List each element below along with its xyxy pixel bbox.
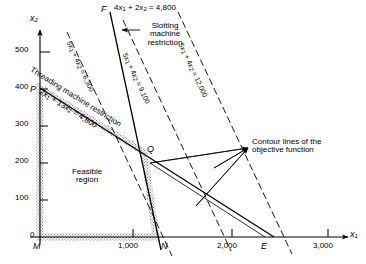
vertex-label-N: N — [161, 242, 168, 251]
feasible-region-label: Feasible region — [57, 168, 117, 185]
vertex-label-E: E — [261, 242, 267, 251]
x-axis-title: x1 — [350, 230, 358, 239]
y-tick-label-0: 0 — [30, 231, 34, 239]
x-tick-label-2000: 2,000 — [217, 242, 237, 250]
contour-caption: Contour lines of the objective function — [252, 138, 321, 155]
contour-leader-lines — [150, 148, 265, 237]
feasible-region-label-line2: region — [57, 176, 117, 184]
y-axis-title: x2 — [30, 14, 38, 23]
vertex-label-F: F — [101, 5, 107, 14]
x-tick-label-1000: 1,000 — [118, 242, 138, 250]
vertex-label-Q: Q — [147, 145, 154, 154]
y-tick-label-500: 500 — [15, 46, 28, 54]
figure-canvas: x2 x1 500 400 300 200 100 0 1,000 2,000 … — [0, 0, 366, 264]
vertex-label-P: P — [30, 85, 36, 94]
y-tick-label-100: 100 — [15, 194, 28, 202]
slotting-equation: 4x1 + 2x2 = 4,800 — [114, 4, 176, 12]
y-tick-label-300: 300 — [15, 120, 28, 128]
contour-caption-line2: objective function — [252, 146, 321, 154]
x-tick-label-3000: 3,000 — [313, 242, 333, 250]
y-tick-label-200: 200 — [15, 157, 28, 165]
vertex-label-M: M — [33, 242, 41, 251]
y-tick-label-400: 400 — [15, 83, 28, 91]
